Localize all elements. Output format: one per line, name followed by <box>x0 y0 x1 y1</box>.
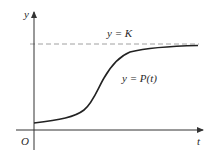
x-axis-label: t <box>197 135 201 147</box>
y-axis-label: y <box>23 8 29 20</box>
origin-label: O <box>21 135 29 147</box>
curve-label: y = P(t) <box>121 72 157 85</box>
logistic-curve <box>34 46 198 124</box>
logistic-diagram: y t O y = K y = P(t) <box>0 0 212 158</box>
asymptote-label: y = K <box>106 27 133 39</box>
